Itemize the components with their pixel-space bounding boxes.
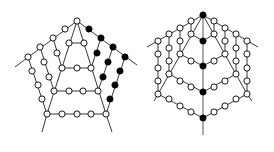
open-node <box>188 18 194 24</box>
open-node <box>233 71 239 77</box>
open-node <box>222 51 228 57</box>
open-node <box>74 18 80 24</box>
open-node <box>222 25 228 31</box>
open-node <box>88 65 94 71</box>
open-node <box>211 84 217 90</box>
open-node <box>166 96 172 102</box>
open-node <box>37 44 43 50</box>
filled-node <box>98 35 104 41</box>
open-node <box>177 78 183 84</box>
open-node <box>29 68 35 74</box>
open-node <box>155 78 161 84</box>
open-node <box>74 111 80 117</box>
open-node <box>233 45 239 51</box>
filled-node <box>110 44 116 50</box>
open-node <box>222 38 228 44</box>
open-node <box>74 65 80 71</box>
filled-node <box>200 89 206 95</box>
filled-node <box>94 50 100 56</box>
open-node <box>244 38 250 44</box>
open-node <box>166 71 172 77</box>
open-node <box>233 96 239 102</box>
open-node <box>155 38 161 44</box>
graph-edge <box>169 74 203 92</box>
filled-node <box>105 59 111 65</box>
open-node <box>244 65 250 71</box>
filled-node <box>200 115 206 121</box>
filled-node <box>122 54 128 60</box>
filled-node <box>117 68 123 74</box>
open-node <box>166 31 172 37</box>
open-node <box>46 74 52 80</box>
open-node <box>177 103 183 109</box>
open-node <box>177 38 183 44</box>
hexagon-web-figure <box>147 12 258 135</box>
filled-node <box>200 12 206 18</box>
open-node <box>155 91 161 97</box>
pentagon-web-figure <box>15 18 137 132</box>
graph-edge <box>40 47 54 91</box>
diagram-canvas <box>0 0 274 152</box>
open-node <box>177 25 183 31</box>
open-node <box>244 51 250 57</box>
open-node <box>166 58 172 64</box>
open-node <box>95 88 101 94</box>
open-node <box>25 54 31 60</box>
open-node <box>244 91 250 97</box>
open-node <box>188 109 194 115</box>
open-node <box>88 111 94 117</box>
open-node <box>62 26 68 32</box>
open-node <box>41 59 47 65</box>
open-node <box>54 50 60 56</box>
open-node <box>211 58 217 64</box>
open-node <box>51 88 57 94</box>
open-node <box>59 65 65 71</box>
open-node <box>66 88 72 94</box>
open-node <box>188 58 194 64</box>
open-node <box>222 78 228 84</box>
open-node <box>211 109 217 115</box>
filled-node <box>200 38 206 44</box>
open-node <box>188 84 194 90</box>
open-node <box>50 35 56 41</box>
open-node <box>233 31 239 37</box>
filled-node <box>107 96 113 102</box>
filled-node <box>200 63 206 69</box>
filled-node <box>100 74 106 80</box>
open-node <box>211 31 217 37</box>
open-node <box>59 111 65 117</box>
open-node <box>35 82 41 88</box>
open-node <box>244 78 250 84</box>
open-node <box>103 111 109 117</box>
open-node <box>166 45 172 51</box>
open-node <box>81 40 87 46</box>
open-node <box>66 40 72 46</box>
graph-edge <box>203 74 236 92</box>
open-node <box>177 51 183 57</box>
filled-node <box>86 26 92 32</box>
open-node <box>222 103 228 109</box>
open-node <box>155 65 161 71</box>
open-node <box>39 96 45 102</box>
open-node <box>155 51 161 57</box>
open-node <box>233 58 239 64</box>
open-node <box>211 18 217 24</box>
filled-node <box>112 82 118 88</box>
open-node <box>188 31 194 37</box>
open-node <box>44 111 50 117</box>
open-node <box>80 88 86 94</box>
